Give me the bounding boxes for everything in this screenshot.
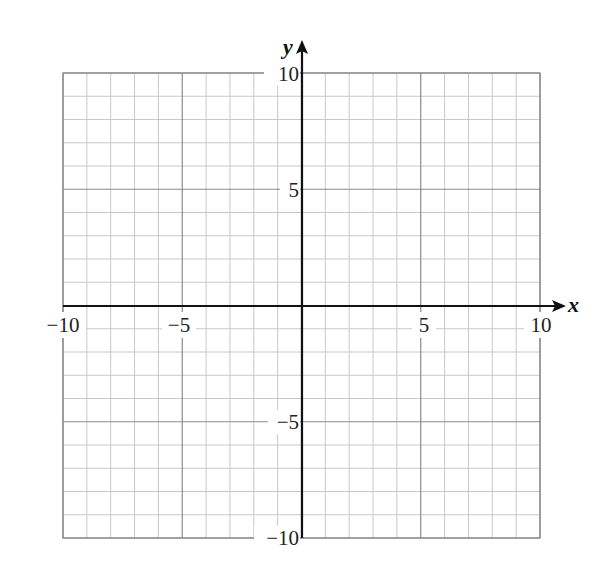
coordinate-plane: x y −10 −5 5 10 10 5 −5 −10 [0, 0, 606, 571]
x-tick-label: −5 [168, 313, 190, 337]
x-tick-label: −10 [47, 313, 80, 337]
x-axis-label: x [567, 292, 579, 317]
y-tick-label: −10 [266, 526, 299, 550]
y-tick-label: 5 [289, 178, 300, 202]
x-tick-label: 10 [531, 313, 552, 337]
x-tick-label: 5 [419, 313, 430, 337]
y-tick-label: 10 [278, 62, 299, 86]
y-axis-label: y [280, 34, 293, 59]
y-tick-label: −5 [277, 410, 299, 434]
